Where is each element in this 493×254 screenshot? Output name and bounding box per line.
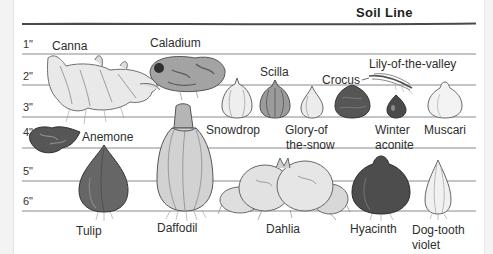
snowdrop-bulb-drawing xyxy=(222,78,252,118)
label-dog-tooth-violet-line-1: Dog-tooth xyxy=(412,223,465,238)
label-muscari: Muscari xyxy=(424,123,466,137)
caladium-tuber-drawing xyxy=(150,57,225,100)
label-lily-of-the-valley-text: Lily-of-the-valley xyxy=(369,57,456,71)
label-hyacinth: Hyacinth xyxy=(350,222,397,236)
lily-of-the-valley-pip-drawing xyxy=(369,74,412,94)
scilla-bulb-drawing xyxy=(260,80,290,118)
winter-aconite-tuber-drawing xyxy=(387,95,406,118)
label-canna: Canna xyxy=(52,39,87,53)
label-dog-tooth-violet-line-2: violet xyxy=(412,238,465,253)
glory-of-the-snow-bulb-drawing xyxy=(301,86,323,118)
dog-tooth-violet-corm-drawing xyxy=(425,160,451,220)
tulip-bulb-drawing xyxy=(79,145,128,221)
depth-label-3: 3" xyxy=(23,101,33,113)
label-caladium-text: Caladium xyxy=(150,36,201,50)
depth-label-4: 4" xyxy=(23,126,33,138)
muscari-bulb-drawing xyxy=(428,82,462,118)
label-canna-text: Canna xyxy=(52,39,87,53)
label-scilla-text: Scilla xyxy=(260,65,289,79)
crocus-corm-drawing xyxy=(335,85,370,118)
label-caladium: Caladium xyxy=(150,36,201,50)
bulb-planting-depth-diagram: Soil Line 1" 2" 3" 4" 5" 6" Canna Caladi… xyxy=(0,0,493,254)
label-crocus: Crocus xyxy=(322,73,360,87)
label-anemone: Anemone xyxy=(82,130,133,144)
depth-label-5: 5" xyxy=(23,165,33,177)
label-winter-aconite-line-2: aconite xyxy=(375,138,414,153)
label-snowdrop-text: Snowdrop xyxy=(206,123,260,137)
label-hyacinth-text: Hyacinth xyxy=(350,222,397,236)
label-daffodil: Daffodil xyxy=(157,221,197,235)
label-anemone-text: Anemone xyxy=(82,130,133,144)
depth-label-6: 6" xyxy=(23,195,33,207)
label-winter-aconite-line-1: Winter xyxy=(375,123,414,138)
label-winter-aconite: Winter aconite xyxy=(375,123,414,153)
anemone-tuber-drawing xyxy=(29,127,80,153)
label-daffodil-text: Daffodil xyxy=(157,221,197,235)
label-snowdrop: Snowdrop xyxy=(206,123,260,137)
depth-label-2: 2" xyxy=(23,70,33,82)
canna-rhizome-drawing xyxy=(47,56,160,124)
label-tulip-text: Tulip xyxy=(76,224,102,238)
label-dog-tooth-violet: Dog-tooth violet xyxy=(412,223,465,253)
label-dahlia-text: Dahlia xyxy=(266,222,300,236)
label-glory-of-the-snow-line-1: Glory-of xyxy=(285,123,335,138)
label-glory-of-the-snow-line-2: the-snow xyxy=(285,138,335,153)
label-dahlia: Dahlia xyxy=(266,222,300,236)
label-muscari-text: Muscari xyxy=(424,123,466,137)
label-glory-of-the-snow: Glory-of the-snow xyxy=(285,123,335,153)
label-scilla: Scilla xyxy=(260,65,289,79)
soil-line xyxy=(22,24,476,25)
depth-label-1: 1" xyxy=(23,38,33,50)
label-lily-of-the-valley: Lily-of-the-valley xyxy=(369,57,456,71)
soil-line-title: Soil Line xyxy=(356,5,413,20)
daffodil-bulb-drawing xyxy=(157,104,213,221)
crocus-leader-line xyxy=(362,78,369,80)
label-tulip: Tulip xyxy=(76,224,102,238)
label-crocus-text: Crocus xyxy=(322,73,360,87)
